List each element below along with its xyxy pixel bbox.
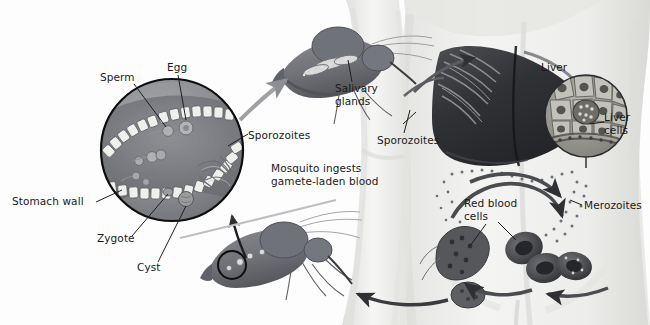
human-torso bbox=[394, 0, 650, 325]
label-liver: Liver bbox=[541, 61, 567, 74]
label-merozoites: Merozoites bbox=[584, 199, 642, 212]
label-stomach-wall: Stomach wall bbox=[12, 195, 84, 208]
malaria-life-cycle-figure: Sperm Egg Sporozoites Stomach wall Zygot… bbox=[0, 0, 650, 325]
label-sporozoites-gut: Sporozoites bbox=[248, 129, 310, 142]
label-sporozoites-arm: Sporozoites bbox=[377, 134, 439, 147]
label-liver-cells: Liver cells bbox=[604, 111, 630, 136]
label-cyst: Cyst bbox=[137, 261, 161, 274]
label-salivary-glands: Salivary glands bbox=[335, 82, 378, 107]
label-red-blood-cells: Red blood cells bbox=[464, 197, 517, 222]
label-zygote: Zygote bbox=[97, 232, 135, 245]
label-egg: Egg bbox=[167, 61, 187, 74]
label-mosquito-ingests: Mosquito ingests gamete-laden blood bbox=[271, 162, 379, 187]
label-sperm: Sperm bbox=[100, 71, 135, 84]
